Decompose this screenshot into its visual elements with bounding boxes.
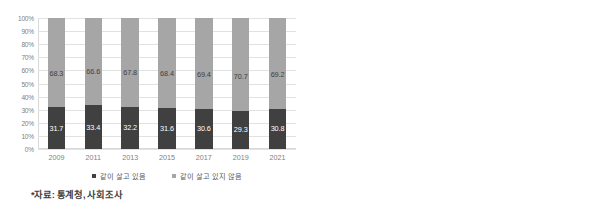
bar-column[interactable]: 69.230.8 bbox=[269, 18, 286, 149]
bar-value-label: 68.4 bbox=[160, 69, 174, 78]
bar-segment-together: 30.6 bbox=[195, 109, 212, 149]
legend-label: 같이 살고 있음 bbox=[100, 171, 146, 181]
bar-segment-apart: 68.3 bbox=[48, 18, 65, 107]
y-tick-label: 10% bbox=[0, 132, 34, 139]
y-tick-label: 100% bbox=[0, 15, 34, 22]
x-tick-label: 2011 bbox=[86, 153, 101, 162]
y-tick-label: 0% bbox=[0, 146, 34, 153]
legend-item[interactable]: 같이 살고 있음 bbox=[92, 171, 146, 181]
bar-value-label: 31.6 bbox=[160, 124, 174, 133]
bar-value-label: 33.4 bbox=[86, 123, 100, 132]
bar-segment-apart: 69.4 bbox=[195, 18, 212, 109]
y-tick-label: 30% bbox=[0, 106, 34, 113]
line-chart-panel: 15.020.025.030.035.040.045.0 20092011201… bbox=[305, 0, 610, 213]
x-tick-label: 2021 bbox=[270, 153, 286, 162]
bar-column[interactable]: 68.431.6 bbox=[158, 18, 175, 149]
bar-chart-legend: 같이 살고 있음같이 살고 있지 않음 bbox=[38, 171, 296, 181]
bar-value-label: 31.7 bbox=[50, 124, 64, 133]
bar-value-label: 69.2 bbox=[271, 70, 285, 79]
bar-value-label: 70.7 bbox=[234, 72, 248, 81]
bar-segment-together: 29.3 bbox=[232, 111, 249, 149]
bar-value-label: 32.2 bbox=[123, 123, 137, 132]
bar-column[interactable]: 68.331.7 bbox=[48, 18, 65, 149]
y-tick-label: 60% bbox=[0, 67, 34, 74]
bar-segment-apart: 66.6 bbox=[85, 18, 102, 105]
y-tick-label: 90% bbox=[0, 28, 34, 35]
bar-column[interactable]: 70.729.3 bbox=[232, 18, 249, 149]
bar-segment-apart: 69.2 bbox=[269, 18, 286, 109]
x-tick-label: 2009 bbox=[48, 153, 64, 162]
bar-segment-together: 30.8 bbox=[269, 109, 286, 149]
legend-swatch-icon bbox=[172, 174, 176, 178]
bar-column[interactable]: 69.430.6 bbox=[195, 18, 212, 149]
bar-chart-panel: 0%10%20%30%40%50%60%70%80%90%100% 68.331… bbox=[0, 0, 305, 213]
bar-segment-apart: 67.8 bbox=[121, 18, 138, 107]
figure-container: 0%10%20%30%40%50%60%70%80%90%100% 68.331… bbox=[0, 0, 610, 213]
x-tick-label: 2017 bbox=[196, 153, 212, 162]
bar-column[interactable]: 67.832.2 bbox=[121, 18, 138, 149]
bar-value-label: 66.6 bbox=[86, 67, 100, 76]
bar-segment-together: 31.7 bbox=[48, 107, 65, 149]
bar-value-label: 29.3 bbox=[234, 125, 248, 134]
bar-value-label: 69.4 bbox=[197, 70, 211, 79]
legend-label: 같이 살고 있지 않음 bbox=[180, 171, 242, 181]
y-tick-label: 20% bbox=[0, 119, 34, 126]
y-tick-label: 70% bbox=[0, 54, 34, 61]
y-tick-label: 40% bbox=[0, 93, 34, 100]
legend-swatch-icon bbox=[92, 174, 96, 178]
x-tick-label: 2015 bbox=[159, 153, 175, 162]
bar-value-label: 67.8 bbox=[123, 68, 137, 77]
bar-segment-apart: 68.4 bbox=[158, 18, 175, 108]
bar-value-label: 30.6 bbox=[197, 124, 211, 133]
bar-segment-together: 32.2 bbox=[121, 107, 138, 149]
bar-segment-together: 31.6 bbox=[158, 108, 175, 149]
bar-chart-plot-area: 0%10%20%30%40%50%60%70%80%90%100% 68.331… bbox=[38, 18, 296, 149]
y-tick-label: 80% bbox=[0, 41, 34, 48]
x-tick-label: 2013 bbox=[122, 153, 138, 162]
bar-segment-together: 33.4 bbox=[85, 105, 102, 149]
bar-value-label: 68.3 bbox=[50, 69, 64, 78]
bar-value-label: 30.8 bbox=[271, 124, 285, 133]
y-tick-label: 50% bbox=[0, 80, 34, 87]
gridline bbox=[38, 149, 296, 150]
x-tick-label: 2019 bbox=[233, 153, 249, 162]
source-note: *자료: 통계청, 사회조사 bbox=[31, 187, 122, 201]
bar-segment-apart: 70.7 bbox=[232, 18, 249, 111]
bar-column[interactable]: 66.633.4 bbox=[85, 18, 102, 149]
legend-item[interactable]: 같이 살고 있지 않음 bbox=[172, 171, 242, 181]
